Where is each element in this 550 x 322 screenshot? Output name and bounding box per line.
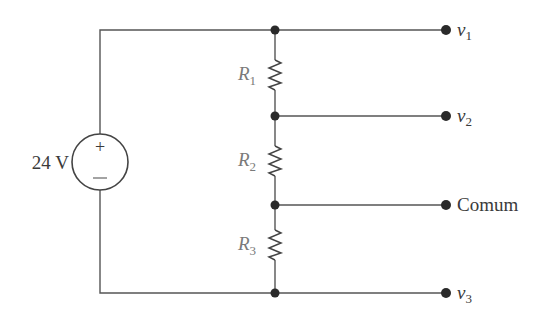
resistor-label-r1-name: R <box>237 63 250 84</box>
terminal-label-v1-sub: 1 <box>465 28 472 43</box>
terminal-comum <box>441 200 451 210</box>
source-plus-sign: + <box>95 137 105 157</box>
terminal-v2 <box>441 111 451 121</box>
terminal-v3 <box>441 288 451 298</box>
terminal-label-v3-sub: 3 <box>465 291 472 306</box>
circuit-diagram: + 24 V R1 R2 R3 v1 v2 Comum v3 <box>0 0 550 322</box>
terminal-label-v3: v3 <box>457 282 472 306</box>
terminal-v1 <box>441 25 451 35</box>
resistor-r3-icon <box>269 230 281 260</box>
resistor-r3 <box>269 230 281 260</box>
resistor-label-r1: R1 <box>237 63 256 88</box>
resistor-label-r3: R3 <box>237 233 256 258</box>
voltage-source: + <box>72 134 128 190</box>
resistor-r2-icon <box>269 146 281 176</box>
resistor-label-r2-sub: 2 <box>250 159 257 174</box>
resistor-r1-icon <box>269 60 281 90</box>
junction-node-top <box>271 26 280 35</box>
resistor-label-r2: R2 <box>237 149 256 174</box>
junction-node-v2 <box>271 112 280 121</box>
resistor-r2 <box>269 146 281 176</box>
resistor-r1 <box>269 60 281 90</box>
terminal-label-v1: v1 <box>457 19 472 43</box>
resistor-label-r3-sub: 3 <box>250 243 257 258</box>
resistor-label-r2-name: R <box>237 149 250 170</box>
terminal-label-v2-sub: 2 <box>465 114 472 129</box>
terminal-label-v2: v2 <box>457 105 472 129</box>
source-voltage-label: 24 V <box>32 152 69 173</box>
resistor-label-r3-name: R <box>237 233 250 254</box>
terminal-label-comum: Comum <box>457 194 518 215</box>
junction-node-comum <box>271 201 280 210</box>
resistor-label-r1-sub: 1 <box>250 73 257 88</box>
junction-node-bottom <box>271 289 280 298</box>
